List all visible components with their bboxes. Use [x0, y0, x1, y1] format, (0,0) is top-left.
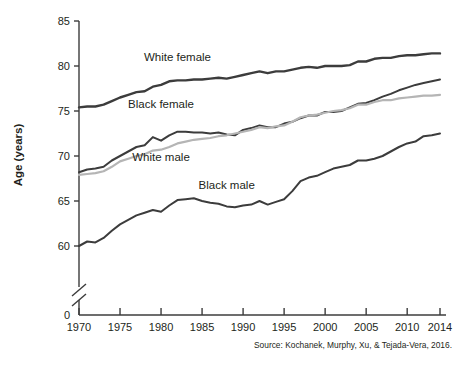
- x-tick-label: 1980: [149, 321, 173, 333]
- y-tick-label: 0: [64, 309, 70, 321]
- x-tick-label: 1995: [272, 321, 296, 333]
- series-line-black-male: [79, 134, 440, 247]
- source-note: Source: Kochanek, Murphy, Xu, & Tejada-V…: [254, 340, 452, 350]
- x-tick-label: 1970: [67, 321, 91, 333]
- life-expectancy-chart-figure: 0606570758085197019751980198519901995200…: [0, 0, 467, 371]
- series-label-white-female: White female: [144, 51, 211, 63]
- series-label-white-male: White male: [132, 151, 190, 163]
- x-tick-label: 2014: [428, 321, 452, 333]
- chart-canvas: 0606570758085197019751980198519901995200…: [0, 0, 467, 371]
- series-group: [79, 53, 440, 246]
- y-tick-label: 75: [58, 105, 70, 117]
- series-labels-group: White femaleBlack femaleWhite maleBlack …: [128, 51, 255, 192]
- x-tick-label: 2010: [395, 321, 419, 333]
- y-tick-label: 60: [58, 240, 70, 252]
- series-label-black-male: Black male: [199, 179, 255, 191]
- series-label-black-female: Black female: [128, 98, 194, 110]
- axes-group: 0606570758085197019751980198519901995200…: [58, 15, 452, 333]
- x-tick-label: 1990: [231, 321, 255, 333]
- y-axis-title: Age (years): [12, 124, 24, 187]
- y-tick-label: 70: [58, 150, 70, 162]
- x-tick-label: 2000: [313, 321, 337, 333]
- x-tick-label: 1975: [108, 321, 132, 333]
- y-tick-label: 85: [58, 15, 70, 27]
- x-tick-label: 2005: [354, 321, 378, 333]
- x-tick-label: 1985: [190, 321, 214, 333]
- y-tick-label: 80: [58, 60, 70, 72]
- y-tick-label: 65: [58, 195, 70, 207]
